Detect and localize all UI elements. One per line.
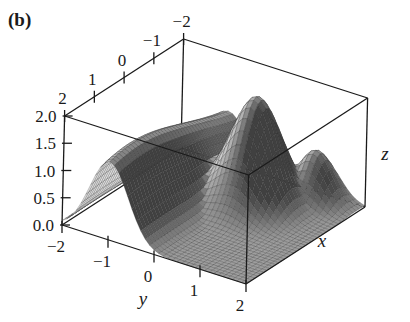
- z-axis-label: z: [380, 143, 389, 164]
- y-tick-label: 2: [236, 296, 245, 315]
- surface-plot: 210−1−2−2−10120.00.51.01.52.0 yxz (b): [0, 0, 410, 322]
- box-edge-top-back-right: [184, 39, 368, 98]
- z-tick-label: 1.0: [34, 162, 55, 181]
- y-tick-label: −1: [93, 252, 111, 271]
- z-tick-label: 2.0: [35, 107, 56, 126]
- y-tick-label: 1: [190, 281, 199, 300]
- box-edge-right-vertical: [365, 98, 368, 207]
- x-tick-label: −1: [143, 31, 161, 50]
- x-tick-label: −2: [173, 12, 191, 31]
- y-tick-label: 0: [144, 267, 153, 286]
- panel-paren-close: ): [25, 9, 31, 31]
- panel-letter: b: [14, 9, 25, 30]
- x-tick-label: 0: [118, 51, 127, 70]
- z-tick-label: 1.5: [35, 134, 56, 153]
- x-tick-label: 1: [88, 70, 97, 89]
- panel-label: (b): [8, 9, 31, 31]
- z-tick-label: 0.5: [33, 189, 54, 208]
- x-axis-label: x: [317, 230, 327, 251]
- z-tick-label: 0.0: [33, 216, 54, 235]
- y-tick-label: −2: [47, 237, 65, 256]
- x-tick-label: 2: [58, 89, 67, 108]
- y-axis-label: y: [137, 288, 148, 309]
